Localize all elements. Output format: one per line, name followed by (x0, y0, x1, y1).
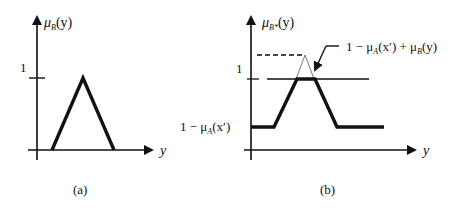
panel-b-x-axis-label: y (421, 143, 430, 158)
panel-b-annotation-arrow (315, 46, 326, 70)
panel-b-caption: (b) (320, 182, 335, 197)
figure-canvas: 1 μB(y) y (a) 1 μB*(y) y 1 − μA(x′) 1 − … (0, 0, 464, 209)
panel-b-floor-label: 1 − μA(x′) (180, 119, 230, 136)
panel-b-y-axis-label: μB*(y) (261, 15, 295, 32)
panel-a-y-axis-label: μB(y) (43, 15, 73, 32)
panel-a-tick-one-label: 1 (20, 60, 27, 75)
panel-b: 1 μB*(y) y 1 − μA(x′) 1 − μA(x′) + μB(y)… (180, 15, 437, 197)
panel-a-caption: (a) (73, 182, 87, 197)
panel-a-x-axis-label: y (158, 143, 167, 158)
panel-b-unclipped-tip (296, 55, 314, 79)
panel-a: 1 μB(y) y (a) (20, 15, 167, 197)
panel-b-tick-one-label: 1 (236, 61, 243, 76)
panel-b-annotation-formula: 1 − μA(x′) + μB(y) (346, 39, 437, 56)
panel-b-clipped-membership (251, 79, 384, 127)
panel-a-triangle-membership (52, 78, 114, 150)
